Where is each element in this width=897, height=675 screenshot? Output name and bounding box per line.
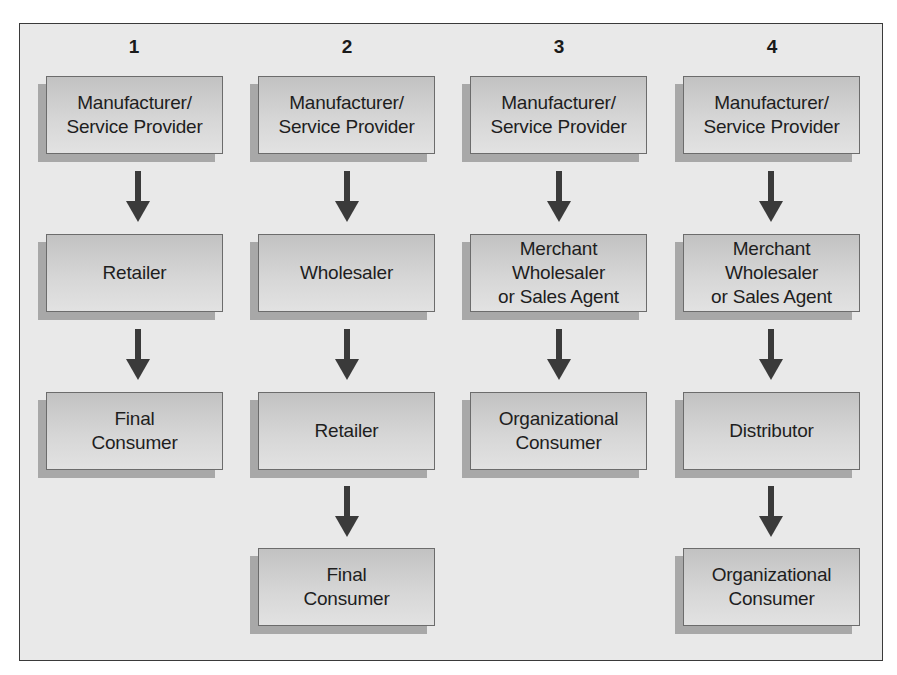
column-number-1: 1 <box>114 36 154 58</box>
channel-1-final-consumer-box: Final Consumer <box>46 392 223 470</box>
channel-2-retailer-box: Retailer <box>258 392 435 470</box>
column-number-2: 2 <box>327 36 367 58</box>
down-arrow-icon <box>125 329 151 381</box>
down-arrow-icon <box>546 329 572 381</box>
channel-2-manufacturer-box: Manufacturer/ Service Provider <box>258 76 435 154</box>
down-arrow-icon <box>758 171 784 223</box>
column-number-4: 4 <box>752 36 792 58</box>
channel-2-final-consumer-box: Final Consumer <box>258 548 435 626</box>
channel-4-distributor-box: Distributor <box>683 392 860 470</box>
down-arrow-icon <box>546 171 572 223</box>
channel-3-merchant-wholesaler-box: Merchant Wholesaler or Sales Agent <box>470 234 647 312</box>
channel-4-manufacturer-box: Manufacturer/ Service Provider <box>683 76 860 154</box>
down-arrow-icon <box>334 329 360 381</box>
down-arrow-icon <box>758 329 784 381</box>
down-arrow-icon <box>758 486 784 538</box>
channel-2-wholesaler-box: Wholesaler <box>258 234 435 312</box>
channel-3-organizational-consumer-box: Organizational Consumer <box>470 392 647 470</box>
down-arrow-icon <box>125 171 151 223</box>
channel-1-manufacturer-box: Manufacturer/ Service Provider <box>46 76 223 154</box>
channel-4-merchant-wholesaler-box: Merchant Wholesaler or Sales Agent <box>683 234 860 312</box>
channel-3-manufacturer-box: Manufacturer/ Service Provider <box>470 76 647 154</box>
down-arrow-icon <box>334 171 360 223</box>
channel-4-organizational-consumer-box: Organizational Consumer <box>683 548 860 626</box>
column-number-3: 3 <box>539 36 579 58</box>
down-arrow-icon <box>334 486 360 538</box>
channel-1-retailer-box: Retailer <box>46 234 223 312</box>
